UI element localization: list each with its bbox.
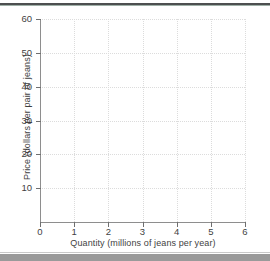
gridline-vertical	[143, 19, 144, 222]
chart-figure: Price (dollars per pair of jeans) Quanti…	[0, 0, 270, 254]
plot-area	[40, 19, 245, 222]
y-axis-tick	[36, 188, 41, 189]
page-bottom-band	[0, 254, 270, 261]
y-axis-tick	[36, 87, 41, 88]
y-axis-tick-label: 10	[8, 182, 32, 193]
gridline-vertical	[245, 19, 246, 222]
x-axis-title: Quantity (millions of jeans per year)	[40, 238, 246, 248]
x-axis-tick-label: 3	[133, 226, 153, 237]
x-axis-tick-label: 0	[30, 226, 50, 237]
gridline-vertical	[211, 19, 212, 222]
gridline-vertical	[74, 19, 75, 222]
x-axis-tick-label: 5	[201, 226, 221, 237]
y-axis-tick	[36, 19, 41, 20]
gridline-vertical	[108, 19, 109, 222]
x-axis-tick-label: 1	[64, 226, 84, 237]
y-axis-tick-label: 50	[8, 47, 32, 58]
y-axis-tick-label: 20	[8, 148, 32, 159]
y-axis-tick-label: 60	[8, 13, 32, 24]
x-axis-tick-label: 2	[98, 226, 118, 237]
y-axis-tick	[36, 53, 41, 54]
y-axis-tick	[36, 154, 41, 155]
page-bottom-band-hairline	[0, 252, 270, 253]
gridline-vertical	[177, 19, 178, 222]
x-axis-tick-label: 4	[167, 226, 187, 237]
y-axis-tick-label: 40	[8, 81, 32, 92]
y-axis-tick-label: 30	[8, 115, 32, 126]
y-axis-tick	[36, 121, 41, 122]
x-axis-tick-label: 6	[235, 226, 255, 237]
